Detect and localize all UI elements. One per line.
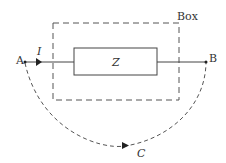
contour-arrow-icon	[122, 142, 129, 149]
contour-path	[25, 63, 206, 146]
label-contour: C	[137, 147, 146, 160]
label-current: I	[36, 45, 42, 58]
label-b: B	[209, 52, 217, 65]
label-z: Z	[111, 56, 120, 69]
circuit-diagram: A B I Z Box C	[0, 0, 226, 163]
label-box: Box	[177, 10, 199, 23]
current-arrow-icon	[36, 58, 42, 66]
label-a: A	[15, 54, 25, 67]
